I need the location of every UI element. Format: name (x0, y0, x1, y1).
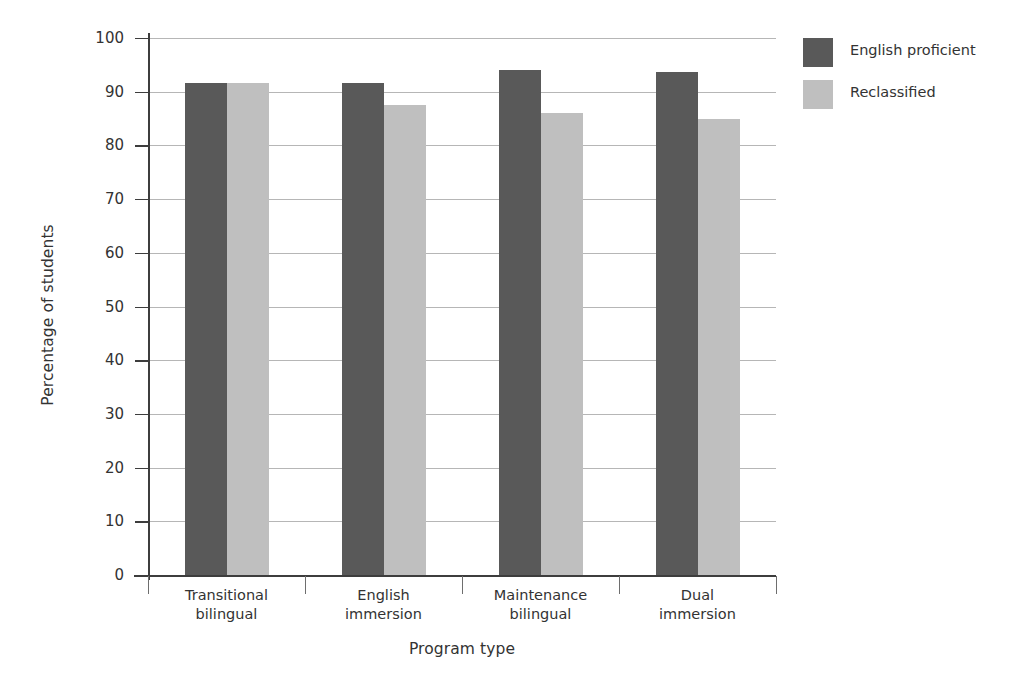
y-axis-tick-label: 100 (64, 29, 124, 47)
category-label-line: Maintenance (462, 586, 619, 605)
y-axis-tick-label: 50 (64, 298, 124, 316)
y-axis-tick (135, 414, 148, 415)
bar-group (342, 38, 426, 575)
bar (656, 72, 698, 575)
bar (541, 113, 583, 575)
y-axis-tick-label: 0 (64, 566, 124, 584)
bar-chart-figure: Percentage of students 01020304050607080… (0, 0, 1017, 696)
category-label-line: immersion (305, 605, 462, 624)
y-axis-title: Percentage of students (39, 205, 57, 425)
bar (227, 83, 269, 575)
y-axis-tick (135, 145, 148, 146)
y-axis-tick-label: 30 (64, 405, 124, 423)
legend-label: English proficient (850, 42, 976, 58)
y-axis-tick (135, 38, 148, 39)
category-label-line: bilingual (148, 605, 305, 624)
category-label: Englishimmersion (305, 586, 462, 623)
y-axis-tick (135, 468, 148, 469)
bar-group (185, 38, 269, 575)
category-label-line: bilingual (462, 605, 619, 624)
y-axis-tick-label: 40 (64, 351, 124, 369)
category-label-line: English (305, 586, 462, 605)
y-axis-tick-label: 20 (64, 459, 124, 477)
legend-label: Reclassified (850, 84, 936, 100)
plot-area (148, 38, 776, 575)
y-axis-tick (135, 360, 148, 361)
bar (499, 70, 541, 575)
y-axis-tick (135, 253, 148, 254)
category-label: Dualimmersion (619, 586, 776, 623)
x-axis-baseline (134, 575, 776, 577)
category-label: Maintenancebilingual (462, 586, 619, 623)
legend-swatch (803, 80, 833, 109)
y-axis-tick-label: 90 (64, 83, 124, 101)
x-axis-title: Program type (148, 640, 776, 658)
category-separator (776, 576, 777, 594)
y-axis-tick (135, 92, 148, 93)
y-axis-tick (135, 307, 148, 308)
bar (384, 105, 426, 575)
category-label-line: Dual (619, 586, 776, 605)
legend-swatch (803, 38, 833, 67)
category-label-line: Transitional (148, 586, 305, 605)
y-axis-tick-label: 60 (64, 244, 124, 262)
bar-group (656, 38, 740, 575)
y-axis-tick (135, 521, 148, 522)
y-axis-tick-label: 10 (64, 512, 124, 530)
y-axis-tick-label: 70 (64, 190, 124, 208)
bar (698, 119, 740, 575)
bar (342, 83, 384, 575)
y-axis-tick-label: 80 (64, 136, 124, 154)
bar (185, 83, 227, 575)
category-label: Transitionalbilingual (148, 586, 305, 623)
category-label-line: immersion (619, 605, 776, 624)
bar-group (499, 38, 583, 575)
y-axis-tick (135, 199, 148, 200)
